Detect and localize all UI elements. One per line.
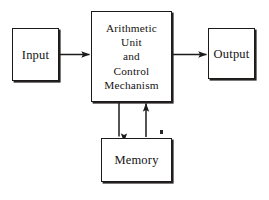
scan-artifact-mark [160, 130, 163, 134]
node-memory[interactable]: Memory [101, 138, 172, 182]
diagram-canvas: Input Arithmetic Unit and Control Mechan… [0, 0, 269, 200]
node-output[interactable]: Output [208, 28, 255, 79]
node-output-label: Output [214, 47, 250, 61]
node-input[interactable]: Input [12, 28, 59, 81]
node-arithmetic-unit-label: Arithmetic Unit and Control Mechanism [104, 21, 159, 93]
node-memory-label: Memory [114, 153, 158, 167]
node-input-label: Input [22, 48, 49, 62]
node-arithmetic-unit-and-control-mechanism[interactable]: Arithmetic Unit and Control Mechanism [91, 11, 172, 102]
